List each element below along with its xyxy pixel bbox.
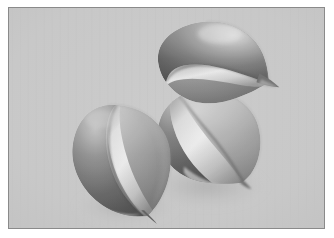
figure-panel: Three cut spheres render Grayscale 3D re… xyxy=(8,7,325,229)
figure-overlay xyxy=(9,8,324,228)
figure-canvas xyxy=(9,8,324,228)
figure-root: Three cut spheres render Grayscale 3D re… xyxy=(0,0,334,238)
